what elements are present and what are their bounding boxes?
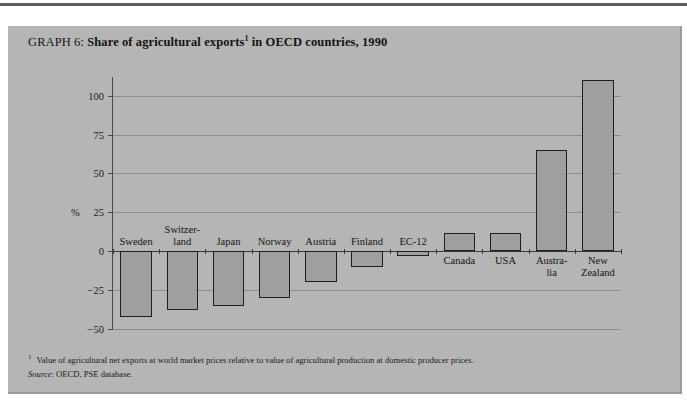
x-axis-tick-7 [436,249,437,254]
top-rule-divider [0,3,687,6]
y-axis-line [112,77,113,329]
title-prefix: GRAPH 6: [28,35,87,49]
x-axis-tick-4 [298,249,299,254]
gridline--50 [113,329,621,330]
y-tick-label--50: −50 [88,324,104,335]
bar-canada[interactable] [444,233,475,252]
y-tick-mark-50 [108,173,113,174]
bar-switzer-land[interactable] [167,251,198,310]
y-tick-mark--50 [108,329,113,330]
figure-panel: GRAPH 6: Share of agricultural exports1 … [8,26,680,392]
source-line: Source: OECD, PSE database. [28,368,648,380]
footnote-1: 1Value of agricultural net exports at wo… [28,351,648,366]
x-axis-tick-6 [390,249,391,254]
x-axis-tick-8 [482,249,483,254]
bar-sweden[interactable] [120,251,151,316]
y-tick-mark--25 [108,290,113,291]
x-axis-tick-end [621,249,622,254]
x-axis-tick-10 [575,249,576,254]
title-suffix: in OECD countries, 1990 [249,35,388,49]
chart-plot-area: 1007550250−25−50 SwedenSwitzer- landJapa… [113,77,621,329]
footnote-1-marker: 1 [28,353,32,361]
bar-new-zealand[interactable] [582,80,613,251]
bar-austra-lia[interactable] [536,150,567,251]
footnote-1-text: Value of agricultural net exports at wor… [37,355,474,365]
y-tick-label-50: 50 [94,168,105,179]
y-tick-label-100: 100 [88,90,104,101]
y-axis-unit-label: % [71,207,80,218]
x-axis-tick-0 [113,249,114,254]
bar-ec-12[interactable] [397,251,428,256]
y-tick-mark-100 [108,96,113,97]
source-label: Source [28,369,52,379]
bar-austria[interactable] [305,251,336,282]
footnotes-block: 1Value of agricultural net exports at wo… [28,351,648,380]
page-title: GRAPH 6: Share of agricultural exports1 … [28,34,387,50]
bar-japan[interactable] [213,251,244,305]
x-axis-tick-1 [159,249,160,254]
y-tick-label--25: −25 [88,285,104,296]
gridline-75 [113,135,621,136]
bar-finland[interactable] [351,251,382,267]
gridline-100 [113,96,621,97]
x-axis-tick-3 [252,249,253,254]
bar-usa[interactable] [490,233,521,252]
y-tick-label-25: 25 [94,207,105,218]
title-main: Share of agricultural exports [87,35,244,49]
screenshot-page: GRAPH 6: Share of agricultural exports1 … [0,0,687,401]
y-tick-mark-25 [108,212,113,213]
y-tick-label-75: 75 [94,129,105,140]
x-axis-tick-2 [205,249,206,254]
y-tick-label-0: 0 [99,246,104,257]
source-text: : OECD, PSE database. [52,369,133,379]
y-tick-mark-75 [108,135,113,136]
x-axis-tick-9 [529,249,530,254]
bar-norway[interactable] [259,251,290,298]
bar-label-ec-12: EC-12 [383,236,443,248]
bar-label-new-zealand: New Zealand [568,255,628,278]
x-axis-tick-5 [344,249,345,254]
